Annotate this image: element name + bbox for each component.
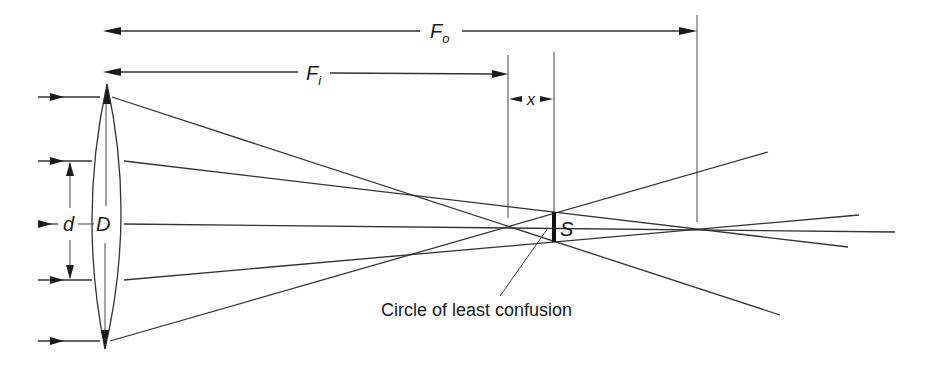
ray-arrow-icon: [50, 276, 64, 284]
ray-arrow-icon: [50, 337, 64, 345]
d-dimension: d: [63, 162, 75, 279]
marginal-ray-top: [112, 97, 780, 315]
d-arrow-up-icon: [66, 162, 74, 176]
optical-axis: [124, 224, 895, 232]
x-arrow-right-icon: [540, 96, 553, 102]
caption-circle-of-least-confusion: Circle of least confusion: [381, 300, 572, 320]
S-label: S: [560, 218, 574, 240]
d-label: d: [63, 213, 75, 235]
fo-dimension: Fo: [103, 20, 697, 46]
ray-arrow-icon: [50, 157, 64, 165]
ray-arrow-icon: [50, 93, 64, 101]
D-label: D: [96, 213, 110, 235]
x-dimension: x: [509, 91, 553, 108]
biconvex-lens: D: [78, 84, 121, 349]
fo-label: Fo: [430, 20, 449, 46]
fi-dimension: Fi: [103, 62, 508, 88]
spherical-aberration-diagram: Fo Fi x: [0, 0, 933, 367]
fi-label: Fi: [306, 62, 322, 88]
caption-leader-line: [500, 228, 548, 296]
fo-arrow-right-icon: [679, 27, 697, 35]
x-label: x: [526, 91, 536, 108]
x-arrow-left-icon: [509, 96, 522, 102]
fi-line-right: [330, 73, 500, 74]
fo-arrow-left-icon: [103, 27, 121, 35]
ray-arrow-icon: [38, 220, 52, 228]
d-arrow-down-icon: [66, 265, 74, 279]
blur-spot: S: [554, 212, 574, 242]
fi-arrow-left-icon: [103, 68, 121, 76]
paraxial-ray-top: [124, 161, 848, 247]
fi-arrow-right-icon: [492, 70, 508, 78]
